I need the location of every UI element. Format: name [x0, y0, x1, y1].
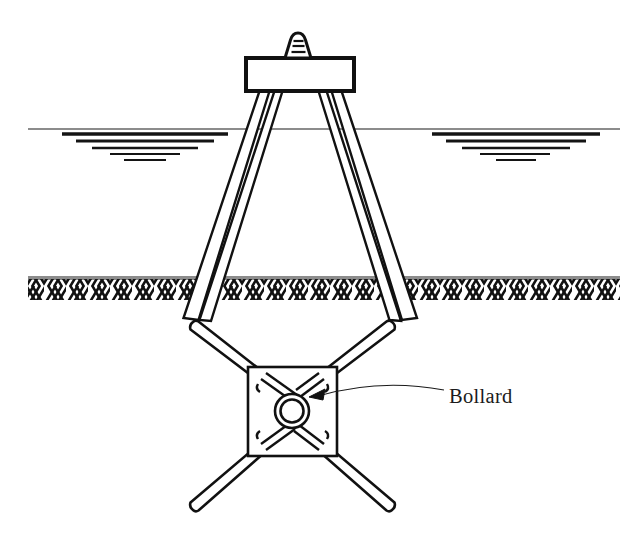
- bollard-label: Bollard: [449, 385, 513, 407]
- bollard-ring: [275, 394, 309, 428]
- deck-block: [246, 58, 354, 91]
- diagram-canvas: Bollard: [0, 0, 637, 546]
- bollard-diagram: Bollard: [0, 0, 637, 546]
- seabed: [20, 275, 628, 303]
